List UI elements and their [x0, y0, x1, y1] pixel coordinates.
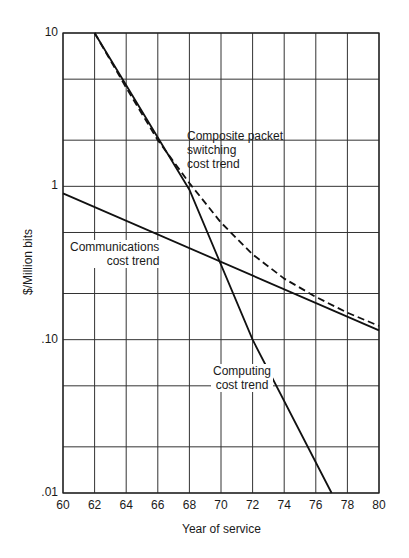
- x-tick-label: 76: [304, 498, 328, 512]
- communications-label-line-1: Communications: [70, 240, 159, 254]
- x-tick-label: 64: [114, 498, 138, 512]
- communications-label-line-2: cost trend: [70, 254, 159, 268]
- x-tick-label: 74: [272, 498, 296, 512]
- computing-label: Computing cost trend: [211, 364, 273, 392]
- cost-trend-chart: [0, 0, 409, 558]
- composite-label: Composite packet switching cost trend: [187, 129, 283, 171]
- x-tick-label: 80: [367, 498, 391, 512]
- computing-label-line-1: Computing: [213, 364, 271, 378]
- y-tick-label: .10: [18, 332, 58, 346]
- y-tick-label: 1: [18, 178, 58, 192]
- x-tick-label: 78: [335, 498, 359, 512]
- x-axis-title: Year of service: [0, 522, 409, 536]
- x-tick-label: 62: [83, 498, 107, 512]
- x-tick-label: 60: [51, 498, 75, 512]
- composite-label-line-3: cost trend: [187, 157, 283, 171]
- x-tick-label: 66: [146, 498, 170, 512]
- x-tick-label: 70: [209, 498, 233, 512]
- y-tick-label: 10: [18, 25, 58, 39]
- y-axis-title: $/Million bits: [21, 212, 35, 312]
- communications-label: Communications cost trend: [68, 240, 161, 268]
- composite-label-line-2: switching: [187, 143, 283, 157]
- composite-label-line-1: Composite packet: [187, 129, 283, 143]
- series-line-composite-packet-switching-cost-trend: [95, 33, 379, 326]
- computing-label-line-2: cost trend: [213, 378, 271, 392]
- y-tick-label: .01: [18, 485, 58, 499]
- x-tick-label: 68: [177, 498, 201, 512]
- x-tick-label: 72: [241, 498, 265, 512]
